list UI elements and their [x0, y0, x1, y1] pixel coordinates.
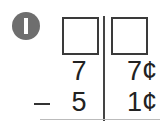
problem-number-glyph [24, 18, 28, 34]
minuend-ones: 7¢ [115, 58, 157, 85]
minus-sign [34, 103, 50, 105]
answer-box-ones[interactable] [111, 17, 148, 55]
column-divider [103, 16, 105, 121]
subtrahend-ones: 1¢ [115, 89, 157, 116]
subtraction-rule [40, 119, 160, 120]
answer-box-tens[interactable] [62, 17, 99, 55]
problem-number-badge [12, 12, 40, 40]
minuend-tens: 7 [68, 58, 90, 85]
subtrahend-tens: 5 [68, 89, 90, 116]
